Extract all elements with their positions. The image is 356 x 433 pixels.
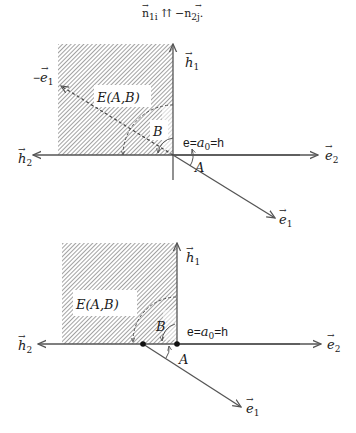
angle-a-arc bbox=[190, 149, 193, 166]
region-label: E(A,B) bbox=[75, 297, 119, 312]
region-label: E(A,B) bbox=[96, 90, 140, 105]
angle-a-label: A bbox=[194, 160, 204, 175]
top-diagram: E(A,B) B A e=a0=h h1 → h2 → e2 → e1 → −e… bbox=[18, 44, 338, 229]
vector-arrow-icon: → bbox=[279, 205, 287, 215]
vector-arrow-icon: → bbox=[185, 48, 193, 58]
angle-b-label: B bbox=[155, 319, 166, 334]
angle-a-label: A bbox=[178, 352, 188, 367]
point-dot bbox=[140, 341, 146, 347]
vector-arrow-icon: → bbox=[325, 141, 333, 151]
caption: n1i⇈−n2j. → → bbox=[142, 1, 203, 22]
equation-label: e=a0=h bbox=[187, 324, 228, 341]
angle-b-label: B bbox=[152, 124, 163, 139]
e1-vector bbox=[143, 344, 241, 407]
n2-vector: n bbox=[184, 7, 191, 20]
e1-vector bbox=[173, 155, 275, 218]
vector-angle-diagram: n1i⇈−n2j. → → E(A,B) B A e=a0=h h1 → h2 … bbox=[0, 0, 356, 433]
bottom-diagram: E(A,B) B A e=a0=h h1 → h2 → e2 → e1 → bbox=[18, 243, 340, 418]
vector-arrow-icon: → bbox=[18, 144, 26, 154]
angle-a-arc bbox=[166, 346, 169, 358]
vector-arrow-icon: → bbox=[41, 63, 49, 73]
vector-arrow-icon: → bbox=[18, 331, 26, 341]
vector-arrow-icon: → bbox=[246, 394, 254, 404]
equation-label: e=a0=h bbox=[183, 135, 224, 152]
codirectional-symbol: ⇈ bbox=[162, 7, 172, 20]
vector-arrow-icon: → bbox=[142, 1, 149, 10]
vector-arrow-icon: → bbox=[195, 1, 202, 10]
origin-dot bbox=[174, 341, 180, 347]
vector-arrow-icon: → bbox=[186, 243, 194, 253]
vector-arrow-icon: → bbox=[327, 330, 335, 340]
